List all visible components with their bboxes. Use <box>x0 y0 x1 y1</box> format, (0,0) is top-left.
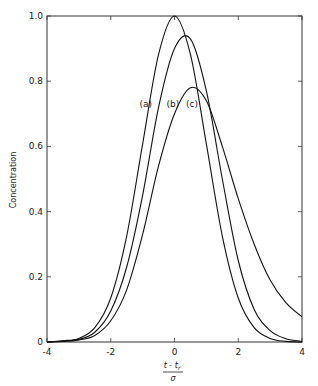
x-tick-label: 4 <box>299 347 305 357</box>
curves <box>47 16 302 342</box>
y-tick-label: 0 <box>37 337 43 347</box>
curve-a <box>47 16 302 342</box>
y-axis-title: Concentration <box>9 152 18 209</box>
y-tick-label: 1.0 <box>29 11 44 21</box>
y-tick-label: 0.8 <box>29 76 44 86</box>
curve-labels: (a)(b)(c) <box>140 99 198 109</box>
x-tick-label: 2 <box>235 347 241 357</box>
curve-b <box>47 36 302 342</box>
axis-ticks: -4-202400.20.40.60.81.0 <box>29 11 305 357</box>
x-axis-title: t - tr σ <box>163 361 183 383</box>
x-tick-label: -4 <box>43 347 52 357</box>
curve-label: (c) <box>186 99 198 109</box>
svg-text:σ: σ <box>170 374 176 383</box>
curve-c <box>47 87 302 342</box>
svg-text:t - tr: t - tr <box>164 361 181 371</box>
x-tick-label: -2 <box>106 347 115 357</box>
curve-label: (b) <box>167 99 180 109</box>
x-tick-label: 0 <box>172 347 178 357</box>
concentration-chart: -4-202400.20.40.60.81.0 (a)(b)(c) Concen… <box>0 0 318 386</box>
y-tick-label: 0.4 <box>29 207 44 217</box>
curve-label: (a) <box>140 99 153 109</box>
y-tick-label: 0.2 <box>29 272 43 282</box>
plot-frame <box>47 16 302 342</box>
y-tick-label: 0.6 <box>29 141 44 151</box>
